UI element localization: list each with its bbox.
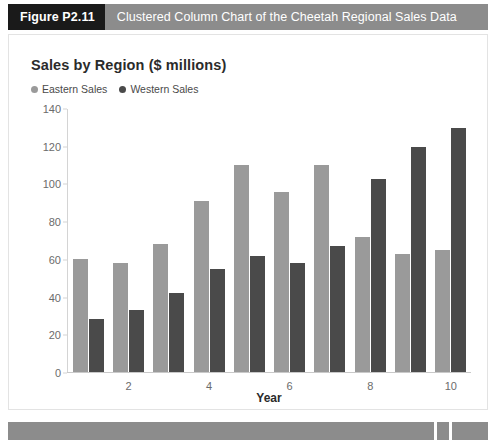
bar-group: 6	[269, 109, 309, 372]
bar-group	[149, 109, 189, 372]
x-axis-title: Year	[67, 391, 471, 405]
y-axis-tick-label: 140	[43, 103, 61, 115]
bar-western-year-7[interactable]	[330, 246, 345, 372]
bar-group	[229, 109, 269, 372]
chart-title: Sales by Region ($ millions)	[31, 57, 226, 73]
bar-eastern-year-7[interactable]	[314, 165, 329, 372]
y-axis-tick-label: 80	[49, 216, 61, 228]
bar-western-year-10[interactable]	[451, 128, 466, 372]
bar-group: 10	[431, 109, 471, 372]
y-axis-tick-mark	[63, 146, 67, 147]
footer-divider	[434, 422, 437, 440]
y-axis-tick-label: 100	[43, 178, 61, 190]
bar-group: 4	[189, 109, 229, 372]
figure-caption: Clustered Column Chart of the Cheetah Re…	[105, 4, 457, 30]
y-axis-tick-mark	[63, 373, 67, 374]
legend-label: Western Sales	[130, 83, 198, 95]
y-axis-tick-label: 40	[49, 292, 61, 304]
bar-western-year-2[interactable]	[129, 310, 144, 372]
legend-swatch-icon	[119, 86, 126, 93]
figure-page: Figure P2.11 Clustered Column Chart of t…	[0, 0, 496, 444]
bar-eastern-year-1[interactable]	[73, 259, 88, 372]
legend-item-western-sales[interactable]: Western Sales	[119, 83, 198, 95]
y-axis-tick-mark	[63, 259, 67, 260]
y-axis-tick-mark	[63, 184, 67, 185]
bar-group	[310, 109, 350, 372]
y-axis-tick-label: 20	[49, 329, 61, 341]
bar-eastern-year-3[interactable]	[153, 244, 168, 372]
figure-tag: Figure P2.11	[8, 4, 105, 30]
legend-item-eastern-sales[interactable]: Eastern Sales	[31, 83, 107, 95]
figure-header: Figure P2.11 Clustered Column Chart of t…	[8, 4, 488, 30]
bar-western-year-1[interactable]	[89, 319, 104, 372]
x-axis-line	[67, 372, 471, 373]
plot-area: 020406080100120140 246810	[67, 109, 471, 373]
legend-swatch-icon	[31, 86, 38, 93]
legend-label: Eastern Sales	[42, 83, 107, 95]
bar-western-year-3[interactable]	[169, 293, 184, 372]
y-axis-tick-mark	[63, 335, 67, 336]
bar-eastern-year-6[interactable]	[274, 192, 289, 372]
footer-band	[8, 422, 488, 440]
bar-eastern-year-10[interactable]	[435, 250, 450, 372]
y-axis-tick-label: 0	[55, 367, 61, 379]
chart-panel: Sales by Region ($ millions) Eastern Sal…	[8, 34, 488, 410]
bar-group: 8	[350, 109, 390, 372]
bar-eastern-year-5[interactable]	[234, 165, 249, 372]
bar-eastern-year-2[interactable]	[113, 263, 128, 372]
chart-legend: Eastern Sales Western Sales	[31, 83, 198, 95]
bar-group	[390, 109, 430, 372]
y-axis-tick-mark	[63, 222, 67, 223]
bar-eastern-year-9[interactable]	[395, 254, 410, 372]
y-axis-tick-label: 120	[43, 141, 61, 153]
bar-group	[68, 109, 108, 372]
bar-eastern-year-8[interactable]	[355, 237, 370, 372]
bar-western-year-6[interactable]	[290, 263, 305, 372]
bar-group: 2	[108, 109, 148, 372]
y-axis-tick-label: 60	[49, 254, 61, 266]
y-axis-tick-mark	[63, 297, 67, 298]
y-axis-tick-mark	[63, 109, 67, 110]
footer-divider	[449, 422, 452, 440]
bar-eastern-year-4[interactable]	[194, 201, 209, 372]
bar-western-year-9[interactable]	[411, 147, 426, 372]
bar-groups: 246810	[68, 109, 471, 372]
bar-western-year-5[interactable]	[250, 256, 265, 372]
bar-western-year-8[interactable]	[371, 179, 386, 372]
bar-western-year-4[interactable]	[210, 269, 225, 372]
